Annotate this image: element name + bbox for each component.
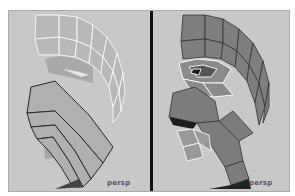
- mesh-right: [153, 11, 289, 191]
- viewport-persp-left[interactable]: persp: [9, 11, 150, 191]
- viewport-persp-right[interactable]: persp: [153, 11, 289, 191]
- mesh-left: [9, 11, 150, 191]
- viewport-panel-container: persp: [8, 10, 290, 192]
- camera-label-persp: persp: [249, 179, 272, 187]
- camera-label-persp: persp: [107, 179, 130, 187]
